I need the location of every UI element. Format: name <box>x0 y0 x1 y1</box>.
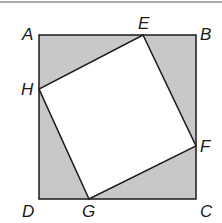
label-g: G <box>82 202 95 221</box>
label-c: C <box>200 202 213 221</box>
diagram-canvas: A B C D E F G H <box>0 0 222 223</box>
label-h: H <box>21 80 34 99</box>
label-f: F <box>200 137 212 156</box>
label-d: D <box>22 202 34 221</box>
label-a: A <box>21 25 33 44</box>
label-e: E <box>138 14 150 33</box>
label-b: B <box>200 25 211 44</box>
geometry-figure: A B C D E F G H <box>0 0 222 223</box>
